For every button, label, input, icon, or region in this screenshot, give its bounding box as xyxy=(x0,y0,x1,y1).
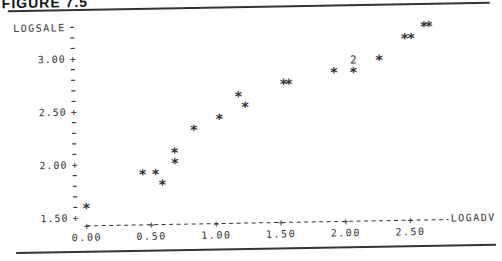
y-axis-label: LOGSALE xyxy=(13,22,66,34)
y-tick-plus: + xyxy=(72,213,78,224)
data-point: * xyxy=(375,52,384,68)
x-tick-label: 0.00 xyxy=(72,232,102,244)
y-tick-plus: + xyxy=(71,107,77,118)
x-tick-plus: + xyxy=(213,218,219,229)
y-axis: 1.50+2.00+2.50+3.00+ xyxy=(37,27,79,224)
data-point: * xyxy=(425,18,434,34)
data-point: * xyxy=(138,166,147,182)
data-points: **************2***** xyxy=(79,18,436,216)
data-point-multiple: 2 xyxy=(350,53,357,66)
x-tick-plus: + xyxy=(84,220,90,231)
x-axis-line xyxy=(87,220,449,226)
x-axis: +0.00+0.50+1.00+1.50+2.00+2.50 xyxy=(72,214,449,243)
y-tick-plus: + xyxy=(71,160,77,171)
data-point: * xyxy=(284,76,293,92)
data-point: * xyxy=(241,99,250,115)
data-point: * xyxy=(158,177,167,193)
x-tick-plus: + xyxy=(148,219,154,230)
x-tick-plus: + xyxy=(407,215,413,226)
figure: FIGURE 7.5 1.50+2.00+2.50+3.00+ +0.00+0.… xyxy=(0,0,502,261)
y-tick-label: 1.50 xyxy=(40,213,68,224)
data-point: * xyxy=(171,155,180,171)
y-tick-label: 3.00 xyxy=(38,54,66,65)
x-axis-label: LOGADV xyxy=(450,212,495,224)
x-tick-label: 1.00 xyxy=(201,229,231,241)
y-tick-label: 2.50 xyxy=(38,107,66,118)
data-point: * xyxy=(407,30,416,46)
y-tick-label: 2.00 xyxy=(39,160,67,171)
x-tick-label: 1.50 xyxy=(266,228,296,240)
x-tick-label: 0.50 xyxy=(136,230,166,242)
scatter-plot: 1.50+2.00+2.50+3.00+ +0.00+0.50+1.00+1.5… xyxy=(0,0,502,261)
x-tick-label: 2.50 xyxy=(395,226,425,238)
y-tick-plus: + xyxy=(70,54,76,65)
x-tick-plus: + xyxy=(342,216,348,227)
data-point: * xyxy=(189,122,198,138)
data-point: * xyxy=(330,64,339,80)
x-tick-label: 2.00 xyxy=(331,227,361,239)
data-point: * xyxy=(82,200,91,216)
x-tick-plus: + xyxy=(278,217,284,228)
data-point: * xyxy=(215,111,224,127)
